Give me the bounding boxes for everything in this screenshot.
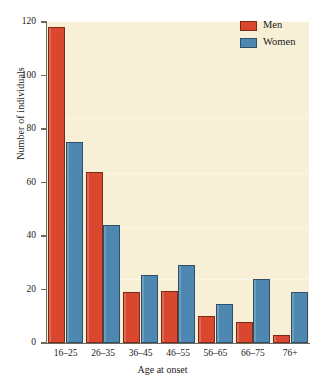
x-axis-title: Age at onset	[0, 364, 325, 375]
bar-women-46-55	[178, 265, 195, 343]
y-axis-tick	[41, 21, 46, 22]
bar-men-56-65	[198, 316, 215, 343]
bar-men-26-35	[86, 172, 103, 343]
legend-item-women[interactable]: Women	[240, 35, 295, 50]
y-axis-line	[46, 21, 47, 344]
bar-women-36-45	[141, 275, 158, 343]
y-axis-tick-label: 100	[6, 71, 36, 81]
bar-men-46-55	[161, 291, 178, 343]
bar-women-16-25	[66, 142, 83, 343]
chart-legend: Men Women	[240, 18, 295, 52]
y-axis-title: Number of individuals	[15, 34, 26, 194]
x-axis-line	[46, 343, 310, 344]
y-axis-tick-label: 20	[6, 285, 36, 295]
bar-women-66-75	[253, 279, 270, 343]
legend-swatch-men	[240, 21, 257, 31]
legend-item-men[interactable]: Men	[240, 18, 295, 33]
y-axis-tick	[41, 128, 46, 129]
y-axis-tick	[41, 289, 46, 290]
y-axis-tick-label: 120	[6, 17, 36, 27]
bar-men-16-25	[48, 27, 65, 343]
x-axis-tick-label: 76+	[260, 348, 320, 358]
bar-men-36-45	[123, 292, 140, 343]
y-axis-tick-label: 60	[6, 178, 36, 188]
bar-women-76+	[291, 292, 308, 343]
bar-chart-figure: Number of individuals 020406080100120 16…	[0, 0, 325, 383]
y-axis-tick-label: 0	[6, 338, 36, 348]
y-axis-tick	[41, 75, 46, 76]
bar-women-56-65	[216, 304, 233, 343]
y-axis-tick	[41, 342, 46, 343]
y-axis-tick-label: 80	[6, 124, 36, 134]
bar-men-76+	[273, 335, 290, 343]
bar-women-26-35	[103, 225, 120, 343]
y-axis-tick	[41, 182, 46, 183]
legend-label-women: Women	[263, 37, 295, 48]
y-axis-tick-label: 40	[6, 231, 36, 241]
y-axis-tick	[41, 235, 46, 236]
legend-swatch-women	[240, 38, 257, 48]
bar-men-66-75	[236, 322, 253, 343]
legend-label-men: Men	[263, 20, 282, 31]
background-band	[47, 118, 309, 119]
